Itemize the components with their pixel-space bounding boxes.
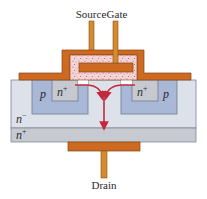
n-substrate-region <box>11 128 196 142</box>
source-pin <box>89 21 94 51</box>
mosfet-cross-section-diagram: Source Gate p n+ <box>0 0 207 199</box>
drain-metal <box>68 142 140 151</box>
source-label: Source <box>76 8 107 20</box>
drain-label: Drain <box>91 179 117 191</box>
gate-electrode <box>79 63 133 72</box>
p-label-left: p <box>39 87 46 101</box>
gate-label: Gate <box>107 8 128 20</box>
gate-pin <box>113 21 118 63</box>
drain-pin <box>101 151 107 178</box>
p-label-right: p <box>162 87 169 101</box>
